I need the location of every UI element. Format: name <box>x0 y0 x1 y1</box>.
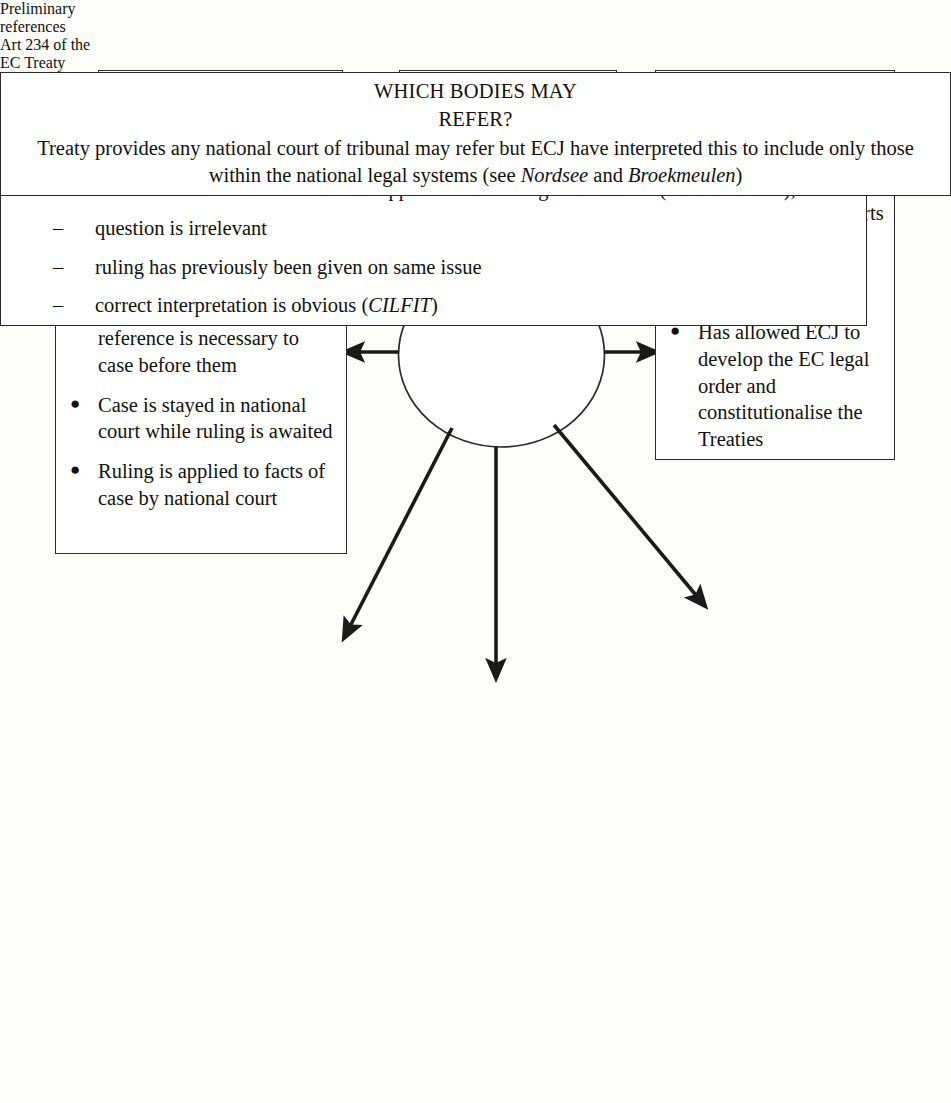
center-node: Preliminary references Art 234 of the EC… <box>0 0 951 72</box>
dash-mark-icon: – <box>53 292 63 319</box>
sub-bullet-item: –correct interpretation is obvious (CILF… <box>43 292 858 319</box>
sub-bullet-text: question is irrelevant <box>95 217 267 239</box>
sub-bullet-text: correct interpretation is obvious (CILFI… <box>95 294 438 316</box>
sub-bullet-list: –question is irrelevant–ruling has previ… <box>43 215 858 319</box>
node-procedure-list: ●National court decides reference is nec… <box>64 299 338 511</box>
node-which-heading-line2: REFER? <box>9 107 942 133</box>
dash-mark-icon: – <box>53 215 63 242</box>
sub-bullet-text: ruling has previously been given on same… <box>95 256 482 278</box>
bullet-mark-icon: ● <box>70 392 80 417</box>
sub-bullet-item: –ruling has previously been given on sam… <box>43 254 858 281</box>
diagram-canvas: Preliminary references Art 234 of the EC… <box>0 0 951 1103</box>
center-line-1: Preliminary <box>0 0 951 18</box>
bullet-item: ●Case is stayed in national court while … <box>64 392 338 445</box>
center-line-2: references <box>0 18 951 36</box>
sub-bullet-item: –question is irrelevant <box>43 215 858 242</box>
bullet-text: Has allowed ECJ to develop the EC legal … <box>698 321 869 450</box>
node-which-heading-line1: WHICH BODIES MAY <box>9 79 942 105</box>
bullet-text: Ruling is applied to facts of case by na… <box>98 460 325 509</box>
dash-mark-icon: – <box>53 254 63 281</box>
bullet-mark-icon: ● <box>70 458 80 483</box>
node-which-body: Treaty provides any national court of tr… <box>9 135 942 190</box>
bullet-item: ●Has allowed ECJ to develop the EC legal… <box>664 319 886 452</box>
bullet-item: ●Ruling is applied to facts of case by n… <box>64 458 338 511</box>
bullet-item: ●Courts from which there is no automatic… <box>9 176 858 319</box>
node-which-bodies: WHICH BODIES MAY REFER? Treaty provides … <box>0 72 951 196</box>
arrow-center-to-refuse <box>344 428 452 638</box>
center-line-3: Art 234 of the <box>0 36 951 54</box>
bullet-text: Case is stayed in national court while r… <box>98 394 333 443</box>
